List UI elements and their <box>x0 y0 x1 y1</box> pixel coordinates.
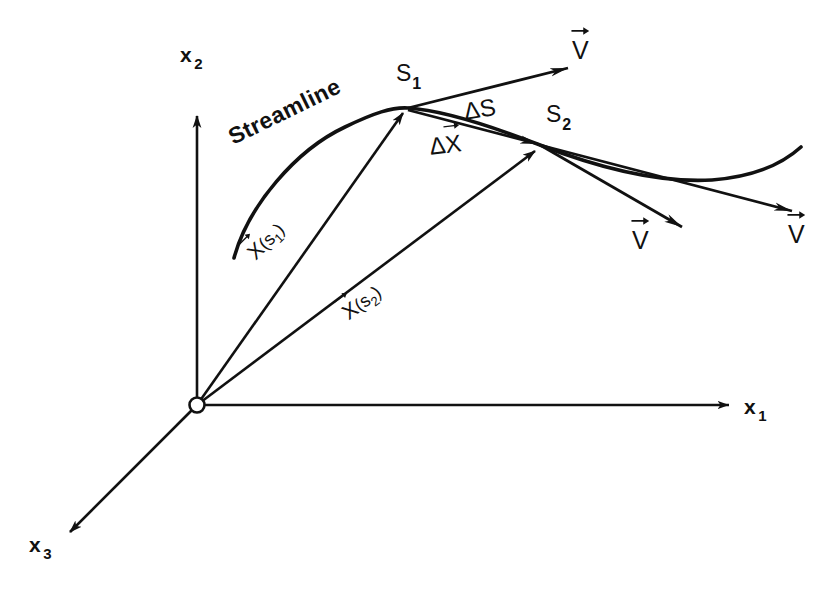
axis-label-x2-base: x <box>180 43 192 66</box>
velocity-vector-label-downstream: V <box>788 222 805 247</box>
vector-arrow-icon <box>442 119 460 131</box>
arc-length-increment-label: ΔS <box>462 95 497 124</box>
velocity-vector-s2-glyph: V <box>632 228 649 253</box>
vector-arrow-icon <box>631 215 650 225</box>
origin-marker <box>190 398 205 413</box>
velocity-vector-at-s2 <box>540 145 682 227</box>
velocity-vector-downstream <box>540 145 792 211</box>
station-label-s1-subscript: 1 <box>412 75 421 92</box>
station-label-s1: S1 <box>396 62 420 85</box>
axis-label-x3-subscript: 3 <box>43 545 52 562</box>
station-label-s2-subscript: 2 <box>562 116 571 133</box>
velocity-vector-downstream-glyph-group: V <box>788 222 805 247</box>
axis-x3 <box>70 405 197 532</box>
streamline-curve <box>234 108 801 258</box>
velocity-vector-s1-glyph-group: V <box>572 38 589 63</box>
position-vector-s2 <box>197 151 535 405</box>
velocity-vector-label-at-s1: V <box>572 38 589 63</box>
station-label-s2: S2 <box>546 103 570 126</box>
displacement-increment-glyph: X <box>444 131 463 157</box>
axis-label-x1-base: x <box>744 395 756 418</box>
velocity-vector-label-at-s2: V <box>632 228 649 253</box>
displacement-increment-label: Δ X <box>428 131 463 159</box>
axis-label-x2-subscript: 2 <box>194 55 203 72</box>
displacement-increment-glyph-group: X <box>444 131 463 157</box>
vector-arrow-icon <box>787 209 806 219</box>
velocity-vector-s2-glyph-group: V <box>632 228 649 253</box>
axis-label-x3-base: x <box>29 533 41 556</box>
velocity-vector-s1-glyph: V <box>572 38 589 63</box>
axis-label-x1: x1 <box>744 396 765 417</box>
streamline-diagram: x2 x1 x3 Streamline S1 S2 X (s1) X <box>0 0 829 606</box>
axis-label-x2: x2 <box>180 44 201 65</box>
station-label-s1-base: S <box>396 60 411 86</box>
axis-label-x1-subscript: 1 <box>758 407 767 424</box>
station-label-s2-base: S <box>546 101 561 127</box>
velocity-vector-downstream-glyph: V <box>788 222 805 247</box>
axis-label-x3: x3 <box>29 534 50 555</box>
vector-arrow-icon <box>571 25 590 35</box>
